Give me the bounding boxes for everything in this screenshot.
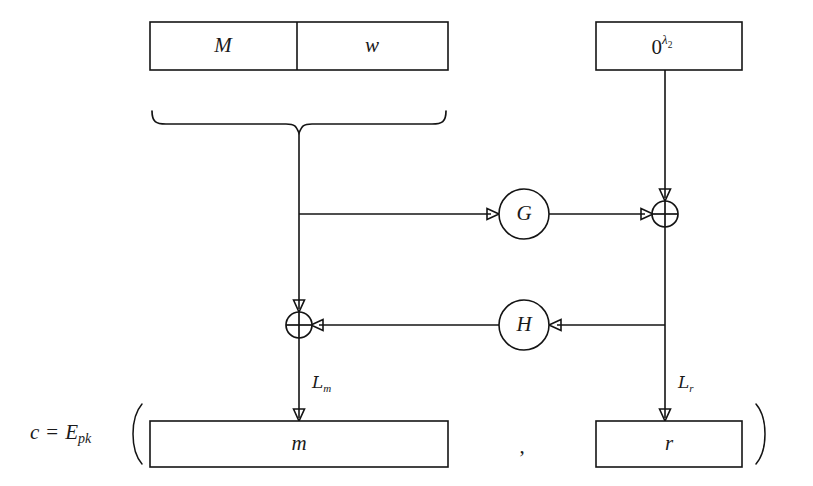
wire-label-lr-symbol: L — [677, 372, 689, 392]
message-input-box: M w — [150, 22, 448, 70]
wire-label-lr-text: Lr — [677, 372, 694, 394]
equation-operator: E — [64, 420, 78, 444]
equation-operator-subscript: pk — [77, 431, 92, 446]
equation-close-paren — [756, 404, 765, 464]
equation-equals: = — [46, 420, 58, 444]
random-output-box: r — [596, 421, 742, 467]
wire-label-lm-subscript: m — [323, 382, 331, 394]
message-output-box: m — [150, 421, 448, 467]
wire-label-lm-symbol: L — [311, 372, 323, 392]
label-m: m — [291, 431, 306, 455]
underbrace-group — [152, 111, 446, 133]
equation-open-paren — [133, 404, 142, 464]
xor-node-bottom — [286, 312, 312, 338]
wire-label-lr-subscript: r — [689, 382, 694, 394]
equation-lhs: c — [30, 420, 40, 444]
wire-network — [294, 70, 671, 421]
label-M: M — [213, 33, 233, 57]
equation-separator-comma: , — [519, 434, 524, 458]
xor-node-top — [652, 201, 678, 227]
label-w: w — [365, 33, 379, 57]
zero-base-glyph: 0 — [652, 35, 663, 59]
zero-exponent-subscript: 2 — [668, 40, 673, 50]
underbrace-path — [152, 111, 446, 133]
ciphertext-equation-text: c=Epk — [30, 420, 92, 446]
message-input-box-rect — [150, 22, 448, 70]
wire-label-lm: Lm — [311, 372, 331, 394]
function-node-h-label: H — [515, 312, 533, 336]
zero-padding-box: 0λ2 — [596, 22, 742, 70]
wire-label-lr: Lr — [677, 372, 694, 394]
oaep-diagram-canvas: M w 0λ2 — [0, 0, 813, 486]
oaep-diagram-root: M w 0λ2 — [0, 0, 813, 486]
function-node-g: G — [499, 189, 549, 239]
wire-label-lm-text: Lm — [311, 372, 331, 394]
label-r: r — [665, 431, 674, 455]
function-node-g-label: G — [516, 201, 531, 225]
function-node-h: H — [499, 300, 549, 350]
